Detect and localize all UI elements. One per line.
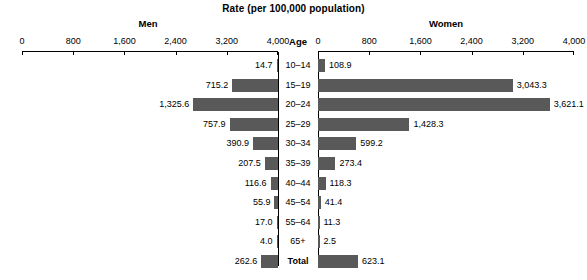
men-bar-value: 262.6 xyxy=(235,256,258,267)
axis-tick-label: 2,400 xyxy=(156,36,196,46)
men-bar-value: 390.9 xyxy=(226,138,249,149)
men-bar-cell: 262.6 xyxy=(22,252,278,272)
women-bar-cell: 3,621.1 xyxy=(318,95,574,115)
women-bar xyxy=(318,79,513,92)
age-label: 10–14 xyxy=(278,56,318,76)
men-bar xyxy=(265,157,278,170)
axis-tick-label: 0 xyxy=(298,36,338,46)
men-bar-value: 1,325.6 xyxy=(159,99,189,110)
axis-tick-mark xyxy=(176,51,177,55)
women-bar-cell: 273.4 xyxy=(318,154,574,174)
chart-row: 116.640–44118.3 xyxy=(0,174,587,194)
men-bar-value: 116.6 xyxy=(245,178,267,189)
axis-tick-label: 3,200 xyxy=(207,36,247,46)
axis-tick-label: 3,200 xyxy=(503,36,543,46)
chart-rows: 14.710–14108.9715.215–193,043.31,325.620… xyxy=(0,56,587,272)
men-bar-cell: 4.0 xyxy=(22,232,278,252)
men-bar-cell: 14.7 xyxy=(22,56,278,76)
women-bar xyxy=(318,255,358,268)
axis-tick-mark xyxy=(227,51,228,55)
women-panel-header: Women xyxy=(396,18,496,29)
women-bar-cell: 599.2 xyxy=(318,134,574,154)
women-bar xyxy=(318,196,321,209)
men-bar xyxy=(271,177,278,190)
women-bar-cell: 1,428.3 xyxy=(318,115,574,135)
axis-tick-label: 0 xyxy=(2,36,42,46)
women-bar-value: 41.4 xyxy=(325,197,343,208)
men-bar-value: 14.7 xyxy=(255,60,273,71)
chart-row: 207.535–39273.4 xyxy=(0,154,587,174)
men-bar-cell: 757.9 xyxy=(22,115,278,135)
women-bar xyxy=(318,118,409,131)
women-bar-value: 2.5 xyxy=(324,236,337,247)
men-bar xyxy=(261,255,278,268)
women-bar-cell: 623.1 xyxy=(318,252,574,272)
men-bar-cell: 1,325.6 xyxy=(22,95,278,115)
chart-row: 715.215–193,043.3 xyxy=(0,76,587,96)
axis-tick-label: 4,000 xyxy=(258,36,298,46)
axis-tick-label: 800 xyxy=(349,36,389,46)
women-bar-cell: 2.5 xyxy=(318,232,574,252)
men-bar xyxy=(253,137,278,150)
chart-row: 14.710–14108.9 xyxy=(0,56,587,76)
chart-row: 17.055–6411.3 xyxy=(0,213,587,233)
women-bar-cell: 3,043.3 xyxy=(318,76,574,96)
chart-row: 55.945–5441.4 xyxy=(0,193,587,213)
women-bar-cell: 118.3 xyxy=(318,174,574,194)
men-bar-cell: 390.9 xyxy=(22,134,278,154)
women-bar xyxy=(318,235,320,248)
chart-row: 4.065+2.5 xyxy=(0,232,587,252)
age-label: 20–24 xyxy=(278,95,318,115)
men-bar-cell: 17.0 xyxy=(22,213,278,233)
men-bar-value: 17.0 xyxy=(255,217,273,228)
age-label: 40–44 xyxy=(278,174,318,194)
axis-tick-mark xyxy=(369,51,370,55)
men-bar-cell: 55.9 xyxy=(22,193,278,213)
women-bar-value: 1,428.3 xyxy=(413,119,443,130)
men-bar-cell: 207.5 xyxy=(22,154,278,174)
men-panel-header: Men xyxy=(98,18,198,29)
men-bar-cell: 715.2 xyxy=(22,76,278,96)
age-label: 25–29 xyxy=(278,115,318,135)
age-label: 45–54 xyxy=(278,193,318,213)
men-bar-cell: 116.6 xyxy=(22,174,278,194)
chart-row: 262.6Total623.1 xyxy=(0,252,587,272)
women-bar-cell: 11.3 xyxy=(318,213,574,233)
women-bar xyxy=(318,59,325,72)
women-bar-value: 3,043.3 xyxy=(517,80,547,91)
women-bar xyxy=(318,98,550,111)
age-label: 35–39 xyxy=(278,154,318,174)
men-axis-line xyxy=(22,51,278,52)
age-label: Total xyxy=(278,252,318,272)
axis-tick-label: 800 xyxy=(53,36,93,46)
axis-tick-label: 1,600 xyxy=(400,36,440,46)
women-bar-value: 11.3 xyxy=(324,217,341,228)
axis-tick-mark xyxy=(22,51,23,55)
men-bar-value: 715.2 xyxy=(206,80,229,91)
age-label: 15–19 xyxy=(278,76,318,96)
women-axis-line xyxy=(318,51,574,52)
women-bar xyxy=(318,157,335,170)
men-bar xyxy=(230,118,279,131)
women-bar-value: 118.3 xyxy=(330,178,352,189)
chart-title: Rate (per 100,000 population) xyxy=(0,3,587,14)
women-bar-value: 273.4 xyxy=(339,158,362,169)
axis-tick-label: 1,600 xyxy=(104,36,144,46)
age-label: 65+ xyxy=(278,232,318,252)
age-label: 55–64 xyxy=(278,213,318,233)
axis-tick-mark xyxy=(573,51,574,55)
women-bar xyxy=(318,137,356,150)
women-bar xyxy=(318,177,326,190)
women-bar xyxy=(318,216,320,229)
men-bar xyxy=(193,98,278,111)
chart-row: 757.925–291,428.3 xyxy=(0,115,587,135)
chart-row: 390.930–34599.2 xyxy=(0,134,587,154)
axis-tick-mark xyxy=(523,51,524,55)
axis-tick-mark xyxy=(472,51,473,55)
women-bar-value: 108.9 xyxy=(329,60,352,71)
men-bar-value: 207.5 xyxy=(238,158,261,169)
men-bar-value: 4.0 xyxy=(260,236,273,247)
axis-tick-label: 4,000 xyxy=(554,36,587,46)
women-bar-value: 3,621.1 xyxy=(554,99,584,110)
age-label: 30–34 xyxy=(278,134,318,154)
